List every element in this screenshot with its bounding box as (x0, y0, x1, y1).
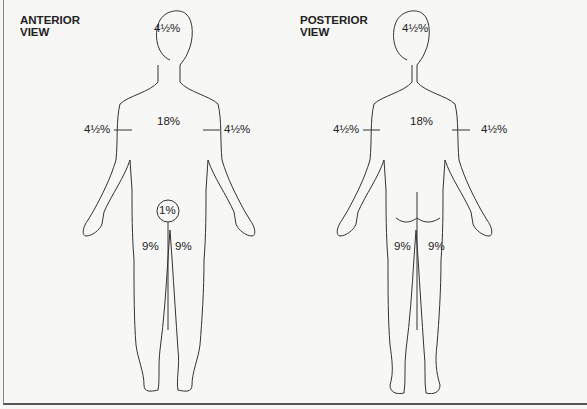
posterior-figure (337, 11, 492, 394)
anterior-figure (83, 11, 255, 391)
body-outlines (0, 0, 587, 409)
posterior-head-label: 4½% (402, 22, 428, 34)
posterior-left-leg-label: 9% (394, 240, 411, 252)
posterior-trunk-label: 18% (410, 115, 433, 127)
anterior-left-arm-label: 4½% (224, 123, 250, 135)
posterior-left-arm-label: 4½% (333, 123, 359, 135)
posterior-right-arm-label: 4½% (481, 123, 507, 135)
anterior-right-leg-label: 9% (142, 240, 159, 252)
posterior-right-leg-label: 9% (428, 240, 445, 252)
anterior-genitalia-label: 1% (159, 204, 176, 216)
anterior-view-title: ANTERIOR VIEW (20, 14, 80, 38)
anterior-left-leg-label: 9% (175, 240, 192, 252)
anterior-trunk-label: 18% (157, 115, 180, 127)
posterior-title-line1: POSTERIOR (300, 14, 368, 26)
anterior-title-line2: VIEW (20, 26, 80, 38)
anterior-title-line1: ANTERIOR (20, 14, 80, 26)
anterior-head-label: 4½% (154, 22, 180, 34)
posterior-title-line2: VIEW (300, 26, 368, 38)
posterior-view-title: POSTERIOR VIEW (300, 14, 368, 38)
anterior-right-arm-label: 4½% (84, 123, 110, 135)
